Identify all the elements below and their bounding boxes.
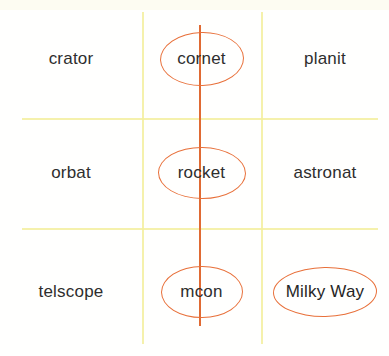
grid-cell-r1c1[interactable]: crator (0, 0, 142, 118)
word-orbat: orbat (51, 163, 91, 183)
word-cornet: cornet (177, 49, 225, 69)
word-crator: crator (49, 49, 94, 69)
word-milky-way: Milky Way (286, 282, 365, 302)
word-grid: crator cornet planit orbat rocket astron… (0, 0, 389, 356)
grid-cell-r3c2[interactable]: mcon (142, 228, 261, 356)
worksheet-canvas: crator cornet planit orbat rocket astron… (0, 0, 389, 356)
grid-cell-r2c2[interactable]: rocket (142, 118, 261, 228)
grid-cell-r2c1[interactable]: orbat (0, 118, 142, 228)
word-mcon: mcon (180, 282, 222, 302)
word-astronat: astronat (293, 163, 356, 183)
word-rocket: rocket (178, 163, 226, 183)
grid-cell-r3c3[interactable]: Milky Way (261, 228, 389, 356)
grid-cell-r1c2[interactable]: cornet (142, 0, 261, 118)
grid-cell-r1c3[interactable]: planit (261, 0, 389, 118)
word-telscope: telscope (39, 282, 104, 302)
grid-cell-r3c1[interactable]: telscope (0, 228, 142, 356)
grid-cell-r2c3[interactable]: astronat (261, 118, 389, 228)
word-planit: planit (304, 49, 346, 69)
